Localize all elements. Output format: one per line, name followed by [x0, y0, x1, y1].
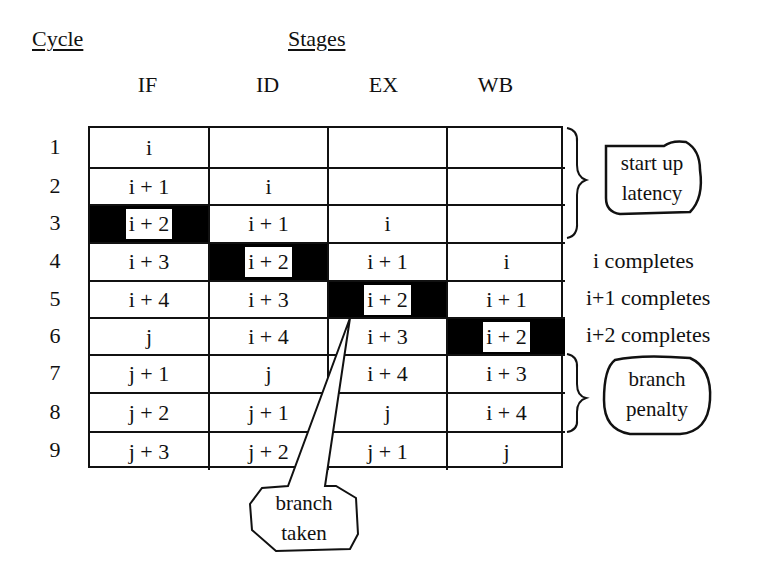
i1-completes-label: i+1 completes: [586, 285, 710, 311]
startup-latency-label: start up latency: [606, 148, 698, 208]
i-completes-label: i completes: [593, 248, 694, 274]
penalty-brace: [567, 354, 586, 432]
branch-penalty-label: branch penalty: [604, 364, 710, 424]
branch-taken-label: branch taken: [252, 488, 356, 548]
startup-brace: [567, 128, 586, 238]
i2-completes-label: i+2 completes: [586, 322, 710, 348]
